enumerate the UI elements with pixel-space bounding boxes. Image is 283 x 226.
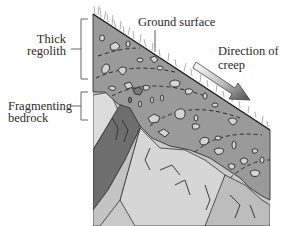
direction-label-line2: creep — [218, 58, 245, 72]
bedrock-label-line2: bedrock — [8, 111, 48, 125]
bedrock-bracket — [71, 92, 88, 120]
direction-label-line1: Direction of — [218, 44, 279, 58]
creep-diagram: Ground surface Direction of creep Thick … — [0, 0, 283, 226]
ground-surface-label: Ground surface — [138, 15, 215, 29]
regolith-bracket — [71, 19, 88, 79]
regolith-label-line2: regolith — [0, 44, 66, 58]
